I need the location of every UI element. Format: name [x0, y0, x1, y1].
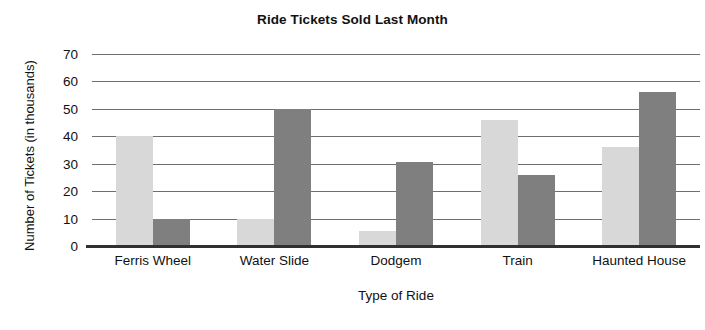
y-tick-label: 30: [44, 156, 78, 171]
bar: [518, 175, 555, 246]
x-tick-label: Train: [502, 253, 532, 268]
bar: [602, 147, 639, 246]
x-tick-label: Water Slide: [240, 253, 309, 268]
y-tick-label: 20: [44, 184, 78, 199]
bar-chart: Ride Tickets Sold Last Month Number of T…: [0, 0, 705, 330]
x-axis-line: [86, 245, 700, 248]
plot-area: [92, 54, 700, 246]
y-axis-title: Number of Tickets (in thousands): [22, 41, 37, 271]
y-tick-label: 10: [44, 211, 78, 226]
bar: [153, 219, 190, 246]
bar: [396, 162, 433, 246]
bar: [237, 219, 274, 246]
x-tick-label: Haunted House: [592, 253, 686, 268]
gridline: [92, 109, 700, 110]
bar: [481, 120, 518, 246]
bar: [274, 109, 311, 246]
y-tick-label: 50: [44, 101, 78, 116]
y-tick-label: 60: [44, 74, 78, 89]
y-tick-label: 40: [44, 129, 78, 144]
bar: [116, 136, 153, 246]
chart-title: Ride Tickets Sold Last Month: [0, 12, 705, 27]
bar: [639, 92, 676, 246]
gridline: [92, 136, 700, 137]
x-axis-tick-labels: Ferris WheelWater SlideDodgemTrainHaunte…: [92, 253, 700, 275]
x-tick-label: Ferris Wheel: [115, 253, 192, 268]
gridline: [92, 81, 700, 82]
y-tick-label: 0: [44, 239, 78, 254]
y-tick-label: 70: [44, 47, 78, 62]
gridline: [92, 54, 700, 55]
y-axis-tick-labels: 706050403020100: [44, 54, 78, 246]
bar: [359, 231, 396, 246]
x-tick-label: Dodgem: [370, 253, 421, 268]
x-axis-title: Type of Ride: [92, 288, 700, 303]
